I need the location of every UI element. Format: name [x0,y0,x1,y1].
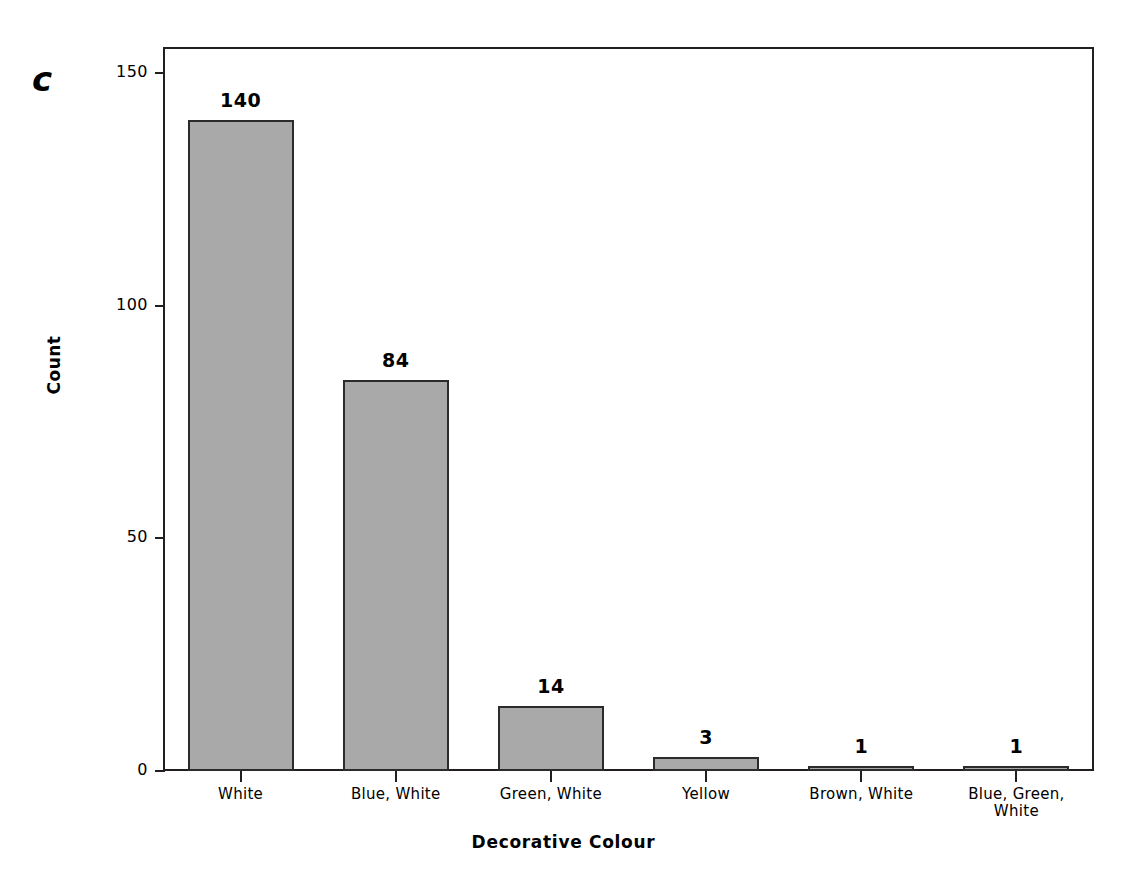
x-tick-label-line: Blue, White [311,786,481,803]
x-tick-mark [705,771,707,782]
x-tick-label: Blue, Green,White [931,786,1101,821]
bar-value-label: 1 [801,735,921,757]
x-tick-mark [860,771,862,782]
plot-area [163,47,1094,771]
bar [188,120,294,771]
x-tick-label-line: White [931,803,1101,820]
y-tick-label: 150 [60,62,148,81]
bar-value-label: 3 [646,726,766,748]
x-tick-label-line: Blue, Green, [931,786,1101,803]
bar-value-label: 84 [336,349,456,371]
x-tick-label-line: Green, White [466,786,636,803]
y-tick-label: 0 [60,760,148,779]
x-tick-mark [550,771,552,782]
y-tick-mark [155,537,165,539]
y-tick-mark [155,770,165,772]
bar [653,757,759,771]
y-tick-label: 100 [60,295,148,314]
panel-label: c [32,62,52,96]
bar [498,706,604,771]
x-tick-label: White [156,786,326,803]
bar-chart-figure: c Count 050100150 1408414311 WhiteBlue, … [0,0,1127,871]
x-tick-label: Green, White [466,786,636,803]
x-tick-label: Yellow [621,786,791,803]
x-tick-label-line: Yellow [621,786,791,803]
x-tick-label-line: Brown, White [776,786,946,803]
bar-value-label: 140 [181,89,301,111]
x-tick-mark [1015,771,1017,782]
y-tick-mark [155,72,165,74]
x-tick-label: Brown, White [776,786,946,803]
x-tick-label-line: White [156,786,326,803]
bar-value-label: 1 [956,735,1076,757]
x-tick-mark [395,771,397,782]
y-tick-mark [155,305,165,307]
x-tick-label: Blue, White [311,786,481,803]
bar-value-label: 14 [491,675,611,697]
y-axis-title: Count [44,295,64,435]
y-tick-label: 50 [60,527,148,546]
x-tick-mark [240,771,242,782]
bar [343,380,449,771]
x-axis-title: Decorative Colour [0,832,1127,852]
